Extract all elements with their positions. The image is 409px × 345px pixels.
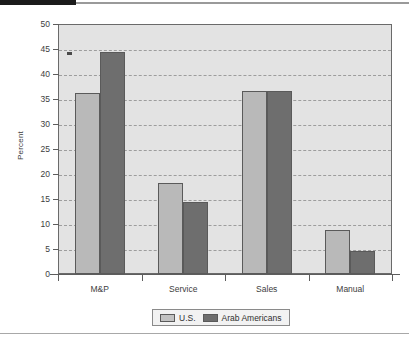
chart-legend: U.S.Arab Americans bbox=[152, 309, 290, 326]
y-axis-tick bbox=[53, 24, 59, 25]
y-axis-tick bbox=[53, 99, 59, 100]
x-axis-tick bbox=[142, 274, 143, 281]
y-axis-tick bbox=[53, 249, 59, 250]
y-axis-label: 5 bbox=[20, 245, 50, 254]
x-axis-label-m-p: M&P bbox=[55, 284, 145, 294]
gridline bbox=[59, 125, 391, 126]
y-axis-tick bbox=[53, 224, 59, 225]
gridline bbox=[59, 175, 391, 176]
gridline bbox=[59, 100, 391, 101]
y-axis-label: 15 bbox=[20, 195, 50, 204]
x-axis-tick bbox=[309, 274, 310, 281]
y-axis-label: 10 bbox=[20, 220, 50, 229]
y-axis-label: 35 bbox=[20, 95, 50, 104]
header-accent-bar bbox=[0, 0, 76, 5]
y-axis-label: 50 bbox=[20, 20, 50, 29]
gridline bbox=[59, 150, 391, 151]
dark-gray-swatch bbox=[203, 314, 218, 322]
gridline bbox=[59, 225, 391, 226]
y-axis-tick bbox=[53, 74, 59, 75]
legend-entry-arab-americans: Arab Americans bbox=[203, 313, 282, 323]
header-rule bbox=[76, 2, 409, 4]
x-axis-label-manual: Manual bbox=[305, 284, 395, 294]
legend-label: U.S. bbox=[179, 313, 196, 323]
plot-area bbox=[58, 24, 392, 274]
gridlines bbox=[59, 25, 391, 273]
y-axis-tick bbox=[53, 124, 59, 125]
x-axis-tick bbox=[392, 274, 393, 281]
legend-label: Arab Americans bbox=[222, 313, 282, 323]
legend-entry-us: U.S. bbox=[160, 313, 196, 323]
footer-rule bbox=[0, 333, 409, 334]
bar-chart-figure: Percent 05101520253035404550 M&PServiceS… bbox=[0, 6, 409, 332]
y-axis-tick bbox=[53, 174, 59, 175]
y-axis-label: 40 bbox=[20, 70, 50, 79]
gridline bbox=[59, 75, 391, 76]
y-axis-label: 45 bbox=[20, 45, 50, 54]
gridline bbox=[59, 200, 391, 201]
gridline bbox=[59, 50, 391, 51]
gridline bbox=[59, 250, 391, 251]
y-axis-tick bbox=[53, 199, 59, 200]
x-axis-label-service: Service bbox=[138, 284, 228, 294]
x-axis-tick bbox=[58, 274, 59, 281]
y-axis-label: 0 bbox=[20, 270, 50, 279]
light-gray-swatch bbox=[160, 314, 175, 322]
y-axis-label: 25 bbox=[20, 145, 50, 154]
x-axis-label-sales: Sales bbox=[222, 284, 312, 294]
y-axis-tick bbox=[53, 49, 59, 50]
y-axis-tick bbox=[53, 149, 59, 150]
y-axis-label: 30 bbox=[20, 120, 50, 129]
y-axis-label: 20 bbox=[20, 170, 50, 179]
stray-mark bbox=[67, 52, 72, 55]
x-axis-tick bbox=[225, 274, 226, 281]
